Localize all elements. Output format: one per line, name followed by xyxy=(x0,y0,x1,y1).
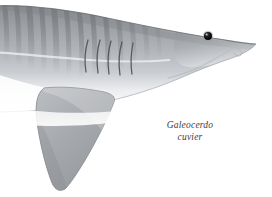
head-shading xyxy=(174,32,256,67)
pectoral-fin-group xyxy=(36,84,128,192)
species-name-label: Galeocerdo cuvier xyxy=(148,119,232,143)
eye-highlight xyxy=(206,34,208,36)
eye-group xyxy=(203,31,213,41)
species-epithet: cuvier xyxy=(148,131,232,143)
eye xyxy=(204,32,212,40)
shark-illustration-figure: Galeocerdo cuvier xyxy=(0,0,272,197)
tiger-shark-drawing xyxy=(0,0,272,197)
genus-name: Galeocerdo xyxy=(148,119,232,131)
